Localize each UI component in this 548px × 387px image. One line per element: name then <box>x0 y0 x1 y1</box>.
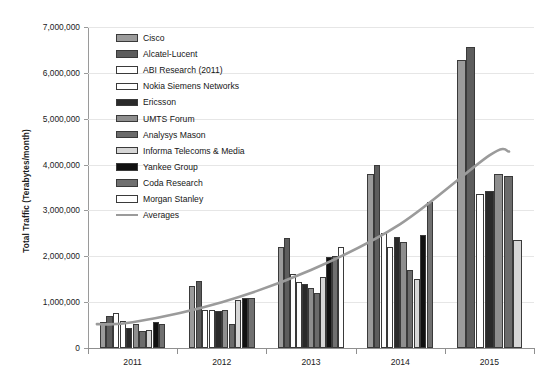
legend-item-label: Averages <box>143 210 179 220</box>
legend-color-swatch <box>116 163 138 171</box>
bar <box>338 247 344 348</box>
bar <box>513 240 522 348</box>
bar <box>189 286 195 348</box>
legend-item-label: Analysys Mason <box>143 130 206 140</box>
bar <box>284 238 290 348</box>
bar <box>146 330 152 348</box>
bar <box>159 324 165 348</box>
bar <box>133 324 139 348</box>
bar <box>367 174 373 348</box>
y-axis-tick-label: 5,000,000 <box>18 114 80 124</box>
bar <box>314 293 320 348</box>
x-axis-tick-label: 2011 <box>123 357 141 367</box>
bar <box>308 288 314 348</box>
legend-color-swatch <box>116 195 138 203</box>
legend-item-label: Cisco <box>143 33 165 43</box>
bar <box>414 279 420 348</box>
legend-item-label: Alcatel-Lucent <box>143 49 197 59</box>
y-axis-tick-label: 2,000,000 <box>18 251 80 261</box>
legend-color-swatch <box>116 83 138 91</box>
legend-item-label: Nokia Siemens Networks <box>143 81 239 91</box>
x-axis-tick-mark <box>177 349 178 354</box>
x-axis-tick-mark <box>88 349 89 354</box>
bar <box>466 47 475 348</box>
legend-item[interactable]: Informa Telecoms & Media <box>116 143 245 159</box>
bar <box>100 322 106 348</box>
chart-legend: CiscoAlcatel-LucentABI Research (2011)No… <box>116 30 245 223</box>
legend-item[interactable]: Cisco <box>116 30 245 46</box>
y-axis-tick-label: 7,000,000 <box>18 22 80 32</box>
bar <box>242 298 248 348</box>
x-axis-tick-mark <box>445 349 446 354</box>
bar <box>332 256 338 348</box>
x-axis-tick-label: 2015 <box>480 357 499 367</box>
gridline <box>88 27 534 28</box>
bar <box>248 298 254 348</box>
bar <box>485 191 494 348</box>
bar <box>196 281 202 348</box>
legend-color-swatch <box>116 50 138 58</box>
bar <box>394 237 400 348</box>
legend-item-label: Yankee Group <box>143 162 198 172</box>
legend-color-swatch <box>116 147 138 155</box>
x-axis-line <box>88 348 535 349</box>
bar <box>400 242 406 348</box>
legend-item[interactable]: UMTS Forum <box>116 110 245 126</box>
bar <box>202 310 208 348</box>
bar <box>476 194 485 348</box>
legend-color-swatch <box>116 99 138 107</box>
legend-line-marker <box>116 214 138 216</box>
y-axis-tick-label: 4,000,000 <box>18 160 80 170</box>
y-axis-tick-label: 0 <box>18 343 80 353</box>
legend-item-label: Coda Research <box>143 178 203 188</box>
bar <box>106 316 112 348</box>
legend-item[interactable]: Ericsson <box>116 94 245 110</box>
x-axis-tick-mark <box>266 349 267 354</box>
bar <box>139 331 145 348</box>
x-axis-tick-mark <box>534 349 535 354</box>
bar <box>235 300 241 348</box>
legend-color-swatch <box>116 66 138 74</box>
y-axis-tick-label: 3,000,000 <box>18 205 80 215</box>
legend-item-label: ABI Research (2011) <box>143 65 223 75</box>
legend-item[interactable]: Coda Research <box>116 175 245 191</box>
legend-item-label: UMTS Forum <box>143 114 195 124</box>
legend-color-swatch <box>116 179 138 187</box>
bar <box>320 277 326 348</box>
legend-item[interactable]: ABI Research (2011) <box>116 62 245 78</box>
bar <box>504 176 513 348</box>
bar <box>229 324 235 348</box>
legend-color-swatch <box>116 115 138 123</box>
bar <box>209 310 215 348</box>
legend-item[interactable]: Analysys Mason <box>116 127 245 143</box>
legend-item[interactable]: Averages <box>116 207 245 223</box>
legend-item-label: Morgan Stanley <box>143 194 203 204</box>
bar <box>302 284 308 348</box>
bar <box>427 202 433 348</box>
y-axis-tick-label: 1,000,000 <box>18 297 80 307</box>
legend-item-label: Ericsson <box>143 97 176 107</box>
legend-item[interactable]: Nokia Siemens Networks <box>116 78 245 94</box>
bar <box>222 310 228 348</box>
legend-item[interactable]: Alcatel-Lucent <box>116 46 245 62</box>
legend-color-swatch <box>116 34 138 42</box>
bar <box>278 247 284 348</box>
x-axis-tick-label: 2014 <box>391 357 410 367</box>
bar <box>326 257 332 348</box>
bar <box>290 274 296 348</box>
legend-color-swatch <box>116 131 138 139</box>
bar <box>296 282 302 348</box>
bar <box>407 270 413 348</box>
bar <box>153 322 159 348</box>
y-axis-tick-label: 6,000,000 <box>18 68 80 78</box>
bar <box>126 328 132 348</box>
bar <box>457 60 466 348</box>
bar <box>374 165 380 348</box>
bar <box>120 321 126 348</box>
legend-item[interactable]: Morgan Stanley <box>116 191 245 207</box>
bar <box>215 311 221 348</box>
bar-chart: Total Traffic (Terabytes/month) 01,000,0… <box>0 0 548 387</box>
x-axis-tick-label: 2012 <box>212 357 231 367</box>
bar <box>113 313 119 348</box>
legend-item[interactable]: Yankee Group <box>116 159 245 175</box>
